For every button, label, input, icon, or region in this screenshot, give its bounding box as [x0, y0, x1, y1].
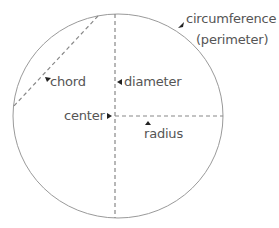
circumference-arrow-icon — [178, 22, 184, 28]
radius-label: radius — [144, 127, 183, 140]
radius-arrow-icon — [145, 121, 151, 125]
chord-label: chord — [50, 75, 86, 88]
circumference-label: circumference — [186, 12, 276, 25]
center-arrow-icon — [107, 113, 112, 119]
center-label: center — [64, 109, 105, 122]
diameter-arrow-icon — [117, 79, 122, 85]
perimeter-label: (perimeter) — [196, 33, 268, 46]
diameter-label: diameter — [124, 75, 181, 88]
chord-line — [13, 16, 98, 107]
